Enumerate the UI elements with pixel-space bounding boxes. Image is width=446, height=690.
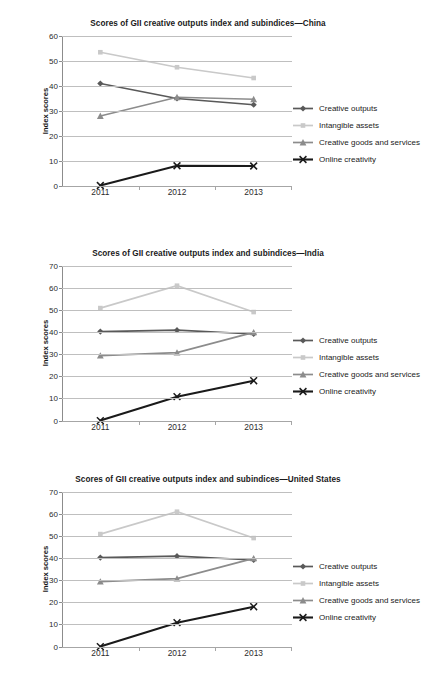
legend-triangle-icon (292, 595, 314, 606)
y-axis-ticks: 0102030405060 (34, 36, 60, 186)
x-tick-label: 2012 (168, 648, 187, 658)
gridline (62, 310, 292, 311)
grid-box (62, 36, 292, 186)
x-tick-label: 2013 (244, 187, 263, 197)
series-lines (62, 266, 292, 421)
y-tick-mark (59, 624, 62, 625)
legend-item[interactable]: Online creativity (292, 151, 442, 168)
gridline (62, 161, 292, 162)
x-tick-label: 2012 (168, 187, 187, 197)
series-line (100, 285, 253, 311)
gridline (62, 136, 292, 137)
chart-panel-india: Scores of GII creative outputs index and… (0, 238, 446, 464)
y-tick-label: 10 (49, 394, 58, 403)
y-tick-label: 0 (54, 416, 58, 425)
y-tick-mark (59, 602, 62, 603)
plot-area: Index scores 010203040506070 20112012201… (24, 492, 292, 647)
gridline (62, 86, 292, 87)
y-tick-label: 50 (49, 305, 58, 314)
y-tick-mark (59, 558, 62, 559)
y-axis-ticks: 010203040506070 (34, 266, 60, 421)
gridline (62, 580, 292, 581)
gridline (62, 36, 292, 37)
legend-x-icon (292, 386, 314, 397)
legend-label: Creative outputs (319, 103, 377, 114)
y-tick-mark (59, 136, 62, 137)
y-tick-mark (59, 536, 62, 537)
legend-square-icon (292, 578, 314, 589)
legend-item[interactable]: Online creativity (292, 609, 442, 626)
y-tick-mark (59, 580, 62, 581)
data-point-square-marker (301, 581, 306, 586)
legend-item[interactable]: Creative goods and services (292, 366, 442, 383)
y-tick-mark (59, 161, 62, 162)
y-tick-label: 30 (49, 350, 58, 359)
y-tick-mark (59, 398, 62, 399)
plot-area: Index scores 010203040506070 20112012201… (24, 266, 292, 421)
y-tick-label: 30 (49, 576, 58, 585)
chart-title: Scores of GII creative outputs index and… (0, 0, 446, 30)
y-axis-ticks: 010203040506070 (34, 492, 60, 647)
y-tick-mark (59, 266, 62, 267)
legend-label: Online creativity (319, 612, 376, 623)
legend-item[interactable]: Creative goods and services (292, 134, 442, 151)
legend-diamond-icon (292, 103, 314, 114)
gridline (62, 376, 292, 377)
y-tick-label: 40 (49, 81, 58, 90)
series-lines (62, 492, 292, 647)
y-tick-mark (59, 354, 62, 355)
legend: Creative outputsIntangible assetsCreativ… (292, 100, 442, 168)
legend-x-icon (292, 154, 314, 165)
y-tick-label: 60 (49, 31, 58, 40)
x-tick-label: 2013 (244, 648, 263, 658)
plot-area: Index scores 0102030405060 201120122013 (24, 36, 292, 186)
legend-item[interactable]: Creative outputs (292, 100, 442, 117)
gridline (62, 266, 292, 267)
legend-item[interactable]: Creative outputs (292, 558, 442, 575)
legend-item[interactable]: Creative goods and services (292, 592, 442, 609)
y-tick-mark (59, 376, 62, 377)
series-line (100, 165, 253, 185)
y-tick-mark (59, 61, 62, 62)
legend-item[interactable]: Intangible assets (292, 117, 442, 134)
legend: Creative outputsIntangible assetsCreativ… (292, 332, 442, 400)
data-point-square-marker (98, 49, 103, 54)
series-line (100, 606, 253, 646)
legend: Creative outputsIntangible assetsCreativ… (292, 558, 442, 626)
gridline (62, 514, 292, 515)
legend-label: Creative goods and services (319, 595, 420, 606)
legend-item[interactable]: Online creativity (292, 383, 442, 400)
legend-square-icon (292, 352, 314, 363)
legend-label: Intangible assets (319, 120, 379, 131)
gridline (62, 398, 292, 399)
legend-item[interactable]: Intangible assets (292, 349, 442, 366)
gridline (62, 624, 292, 625)
y-tick-label: 40 (49, 553, 58, 562)
legend-label: Creative goods and services (319, 137, 420, 148)
legend-item[interactable]: Creative outputs (292, 332, 442, 349)
data-point-square-marker (251, 75, 256, 80)
gridline (62, 602, 292, 603)
legend-label: Online creativity (319, 154, 376, 165)
y-tick-mark (59, 36, 62, 37)
y-tick-label: 0 (54, 181, 58, 190)
x-tick-label: 2011 (91, 648, 109, 658)
data-point-diamond-marker (300, 563, 306, 569)
series-line (100, 511, 253, 537)
legend-triangle-icon (292, 137, 314, 148)
chart-panel-china: Scores of GII creative outputs index and… (0, 0, 446, 238)
y-tick-label: 10 (49, 620, 58, 629)
x-tick-label: 2011 (91, 187, 109, 197)
y-tick-label: 20 (49, 131, 58, 140)
grid-box (62, 492, 292, 647)
x-tick-label: 2011 (91, 422, 109, 432)
x-tick-label: 2013 (244, 422, 263, 432)
legend-item[interactable]: Intangible assets (292, 575, 442, 592)
legend-label: Intangible assets (319, 352, 379, 363)
legend-diamond-icon (292, 335, 314, 346)
chart-panel-united-states: Scores of GII creative outputs index and… (0, 464, 446, 690)
y-tick-label: 60 (49, 283, 58, 292)
gridline (62, 354, 292, 355)
chart-title: Scores of GII creative outputs index and… (0, 464, 446, 486)
data-point-square-marker (175, 64, 180, 69)
